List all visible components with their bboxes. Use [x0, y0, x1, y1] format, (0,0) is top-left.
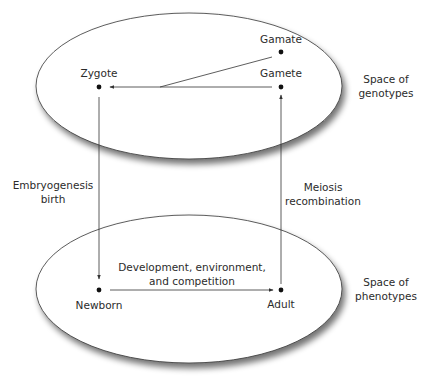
newborn-label: Newborn [76, 299, 123, 311]
development-label-line2: and competition [149, 275, 235, 287]
meiosis-label-line2: recombination [285, 195, 361, 207]
zygote-label: Zygote [80, 67, 117, 79]
adult-dot [279, 288, 284, 293]
gamate-dot [279, 50, 284, 55]
gamete-dot [279, 85, 284, 90]
genotype-space-label-line1: Space of [363, 73, 409, 85]
life-cycle-diagram: Zygote Gamete Gamate Newborn Adult Space… [0, 0, 440, 383]
phenotype-space-label-line2: phenotypes [355, 290, 417, 302]
zygote-dot [97, 85, 102, 90]
meiosis-label-line1: Meiosis [304, 181, 343, 193]
embryogenesis-label-line1: Embryogenesis [13, 179, 94, 191]
phenotype-space-label-line1: Space of [363, 276, 409, 288]
genotype-space-label-line2: genotypes [358, 87, 413, 99]
adult-label: Adult [267, 298, 294, 310]
development-label-line1: Development, environment, [118, 261, 266, 273]
newborn-dot [97, 288, 102, 293]
gamate-label: Gamate [260, 33, 302, 45]
phenotype-space-ellipse [36, 215, 342, 363]
embryogenesis-label-line2: birth [41, 193, 66, 205]
gamete-label: Gamete [260, 67, 302, 79]
